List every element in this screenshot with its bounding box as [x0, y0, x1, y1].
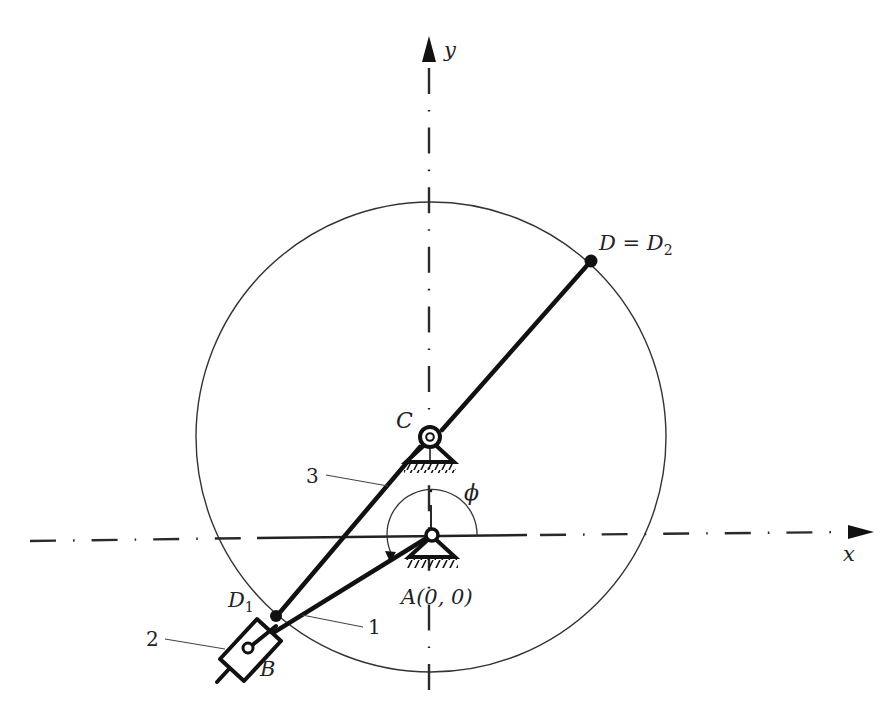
- point-d: [585, 255, 598, 268]
- point-c-label: C: [396, 408, 413, 433]
- point-d1-label: D1: [227, 588, 254, 615]
- point-d-label: D = D2: [598, 231, 673, 258]
- point-b-label: B: [259, 657, 275, 681]
- y-axis-label: y: [443, 38, 457, 62]
- x-axis-label: x: [843, 542, 855, 566]
- link-2-number: 2: [146, 627, 159, 651]
- angle-phi-label: ϕ: [464, 480, 479, 505]
- link-1-number: 1: [368, 615, 381, 639]
- mechanism-diagram: y x C ϕ A(0, 0): [0, 0, 886, 713]
- fixed-support-c: [404, 427, 456, 473]
- x-axis-solid-segment: [257, 535, 527, 538]
- link-3-number: 3: [306, 464, 319, 488]
- leader-link-1: [302, 615, 363, 627]
- x-axis-arrow-icon: [848, 525, 874, 539]
- y-axis-arrow-icon: [422, 36, 436, 62]
- leader-link-2: [165, 639, 225, 649]
- point-d1: [270, 610, 282, 622]
- point-a-label: A(0, 0): [399, 585, 473, 609]
- leader-link-3: [326, 475, 388, 486]
